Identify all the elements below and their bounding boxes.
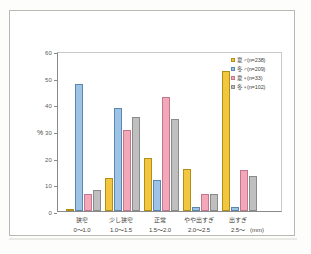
legend-item: 冬♂(n=209) bbox=[231, 65, 295, 73]
bar bbox=[153, 180, 161, 211]
legend-color-swatch bbox=[231, 85, 235, 89]
bar bbox=[249, 176, 257, 211]
bar bbox=[222, 71, 230, 211]
legend: 夏♂(n=238)冬♂(n=209)夏♀(n=33)冬♀(n=102) bbox=[231, 56, 295, 92]
bar bbox=[93, 190, 101, 211]
legend-item: 夏♀(n=33) bbox=[231, 74, 295, 82]
bar bbox=[231, 207, 239, 211]
bar bbox=[171, 119, 179, 211]
bar bbox=[201, 194, 209, 211]
y-tick-label: 40 bbox=[45, 103, 52, 109]
x-axis-labels: 狭窄0〜1.0少し狭窄1.0〜1.5正常1.5〜2.0やや出すぎ2.0〜2.5出… bbox=[57, 214, 282, 246]
bar-group bbox=[181, 53, 219, 211]
x-label-name: 出すぎ bbox=[213, 216, 263, 226]
bar bbox=[123, 130, 131, 211]
bar bbox=[66, 209, 74, 211]
y-tick-label: 60 bbox=[45, 50, 52, 56]
legend-label: 夏♀(n=33) bbox=[237, 74, 262, 82]
y-tick-label: 0 bbox=[48, 210, 52, 216]
bar-group bbox=[64, 53, 102, 211]
bar bbox=[162, 97, 170, 211]
y-tick-label: 10 bbox=[45, 183, 52, 189]
y-axis: 0102030405060 bbox=[10, 52, 57, 213]
y-tick-label: 50 bbox=[45, 77, 52, 83]
bar bbox=[210, 194, 218, 211]
legend-label: 冬♀(n=102) bbox=[237, 83, 265, 91]
bar bbox=[132, 117, 140, 211]
legend-label: 冬♂(n=209) bbox=[237, 65, 265, 73]
bar bbox=[183, 169, 191, 211]
bar bbox=[240, 170, 248, 211]
chart-page: 0102030405060 % 狭窄0〜1.0少し狭窄1.0〜1.5正常1.5〜… bbox=[0, 0, 311, 254]
y-tick-label: 20 bbox=[45, 157, 52, 163]
bar-group bbox=[142, 53, 180, 211]
bar bbox=[192, 207, 200, 211]
page-frame: 0102030405060 % 狭窄0〜1.0少し狭窄1.0〜1.5正常1.5〜… bbox=[9, 10, 295, 236]
legend-item: 夏♂(n=238) bbox=[231, 56, 295, 64]
x-axis-unit-label: (mm) bbox=[250, 227, 264, 233]
bar bbox=[75, 84, 83, 211]
y-tick-label: 30 bbox=[45, 130, 52, 136]
y-axis-title: % bbox=[37, 129, 43, 136]
bar bbox=[114, 108, 122, 211]
legend-color-swatch bbox=[231, 67, 235, 71]
bar bbox=[144, 158, 152, 211]
bar bbox=[84, 194, 92, 211]
legend-label: 夏♂(n=238) bbox=[237, 56, 265, 64]
legend-color-swatch bbox=[231, 58, 235, 62]
legend-color-swatch bbox=[231, 76, 235, 80]
bar-group bbox=[103, 53, 141, 211]
page-shadow bbox=[9, 238, 297, 240]
legend-item: 冬♀(n=102) bbox=[231, 83, 295, 91]
bar bbox=[105, 178, 113, 211]
